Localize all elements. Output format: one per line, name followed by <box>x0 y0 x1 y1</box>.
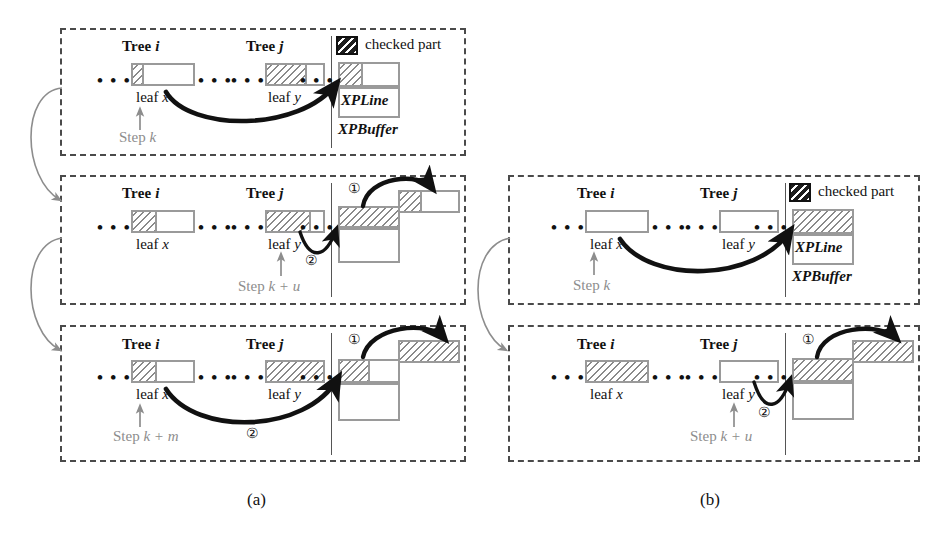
panel-b2-separator <box>785 333 786 455</box>
panel-b2-leaf-x-box <box>585 360 649 383</box>
panel-a1-leaf-x-fill <box>133 65 144 84</box>
panel-b2-marker-two: ② <box>758 404 771 421</box>
panel-a1-leaf-y-label: leaf y <box>268 89 301 106</box>
panel-a2-leaf-y-label: leaf y <box>268 236 301 253</box>
panel-a1-tree-j-label: Tree j <box>246 38 284 55</box>
panel-a2-tree-i-label: Tree i <box>122 185 160 202</box>
panel-b1-tree-j-label: Tree j <box>700 185 738 202</box>
panel-b1-dots-left: • • • <box>551 219 586 236</box>
figure-root: Tree i Tree j checked part • • • • • • l… <box>0 0 932 538</box>
panel-a3-leaf-x-fill <box>133 362 157 381</box>
panel-a3-dots-mid1: • • • <box>198 369 233 386</box>
panel-a3-leaf-y-label: leaf y <box>268 386 301 403</box>
checked-part-legend-label: checked part <box>365 36 441 53</box>
panel-b2-step-label: Step k + u <box>690 428 752 445</box>
panel-b2-buffer-body <box>792 382 854 420</box>
panel-b1-checked-part-label: checked part <box>818 183 894 200</box>
panel-b2-dots-mid1: • • • <box>652 369 687 386</box>
panel-a1-xpline-fill <box>340 64 363 85</box>
panel-b2-tree-i-label: Tree i <box>577 336 615 353</box>
panel-a3-output-box <box>398 340 460 363</box>
panel-b2-buffer-line <box>792 358 854 382</box>
panel-a3-buffer-body <box>338 383 400 421</box>
panel-b2-dots-right: • • • <box>754 369 789 386</box>
panel-a2-step-label: Step k + u <box>238 278 300 295</box>
connector-b1-to-b2 <box>478 238 510 350</box>
panel-a2-leaf-x-fill <box>133 212 157 231</box>
panel-a2-dots-mid1: • • • <box>198 219 233 236</box>
panel-b1-dots-right: • • • <box>754 219 789 236</box>
panel-a2-dots-left: • • • <box>97 219 132 236</box>
panel-a3-marker-one: ① <box>348 331 361 348</box>
panel-a3-marker-two: ② <box>246 425 259 442</box>
panel-a1-xpline-box <box>338 62 400 87</box>
panel-a1-leaf-x-label: leaf x <box>136 89 169 106</box>
panel-a1-leaf-x-box <box>131 63 195 86</box>
panel-b2-output-box <box>852 340 914 363</box>
panel-a3-leaf-x-box <box>131 360 195 383</box>
panel-a1-xpline-label: XPLine <box>341 92 389 109</box>
panel-a2-separator <box>331 183 332 297</box>
panel-a3-tree-i-label: Tree i <box>122 336 160 353</box>
panel-a2-dots-right: • • • <box>300 219 335 236</box>
panel-b1-xpline-box <box>792 209 854 234</box>
panel-a3-buffer-line <box>338 359 400 383</box>
panel-a2-output-fill <box>400 192 422 211</box>
panel-b1-step-label: Step k <box>573 277 610 294</box>
panel-a2-buffer-body <box>338 228 400 263</box>
panel-b1-separator <box>785 183 786 297</box>
panel-a1-dots-right: • • • <box>300 72 335 89</box>
panel-a3-leaf-x-label: leaf x <box>136 386 169 403</box>
panel-a3-step-label: Step k + m <box>113 428 179 445</box>
panel-a2-leaf-x-box <box>131 210 195 233</box>
panel-a1-tree-i-label: Tree i <box>122 38 160 55</box>
panel-a3-separator <box>331 333 332 455</box>
panel-a2-buffer-line <box>338 206 400 228</box>
panel-a3-dots-right: • • • <box>300 369 335 386</box>
panel-a1-dots-mid1: • • • <box>198 72 233 89</box>
panel-a3-tree-j-label: Tree j <box>246 336 284 353</box>
panel-a2-output-box <box>398 190 460 213</box>
panel-b1-tree-i-label: Tree i <box>577 185 615 202</box>
panel-b1-xpbuffer-label: XPBuffer <box>792 268 852 285</box>
connector-a1-to-a2 <box>31 88 62 200</box>
checked-part-swatch <box>336 36 358 55</box>
panel-b2-dots-left: • • • <box>551 369 586 386</box>
panel-b2-leaf-x-label: leaf x <box>590 386 623 403</box>
panel-a3-dots-mid2: • • • <box>231 369 266 386</box>
panel-b2-marker-one: ① <box>802 331 815 348</box>
panel-a3-buffer-line-fill <box>340 361 370 381</box>
panel-b1-leaf-x-label: leaf x <box>590 236 623 253</box>
panel-a1-xpbuffer-label: XPBuffer <box>338 121 398 138</box>
panel-b1-leaf-y-label: leaf y <box>722 236 755 253</box>
connector-a2-to-a3 <box>31 238 62 350</box>
subcaption-b: (b) <box>700 490 720 510</box>
panel-b1-leaf-x-box <box>585 210 649 233</box>
panel-b1-dots-mid1: • • • <box>652 219 687 236</box>
panel-a2-leaf-x-label: leaf x <box>136 236 169 253</box>
panel-a1-dots-left: • • • <box>97 72 132 89</box>
panel-a1-step-label: Step k <box>119 129 156 146</box>
panel-a2-marker-two: ② <box>305 252 318 269</box>
panel-a3-dots-left: • • • <box>97 369 132 386</box>
panel-a2-marker-one: ① <box>348 180 361 197</box>
panel-b2-dots-mid2: • • • <box>685 369 720 386</box>
panel-b1-checked-part-swatch <box>789 183 811 202</box>
panel-b1-xpline-label: XPLine <box>795 239 843 256</box>
panel-b1-dots-mid2: • • • <box>685 219 720 236</box>
panel-b2-tree-j-label: Tree j <box>700 336 738 353</box>
panel-b2-leaf-y-label: leaf y <box>722 386 755 403</box>
panel-a1-separator <box>331 36 332 148</box>
panel-a2-tree-j-label: Tree j <box>246 185 284 202</box>
panel-a2-dots-mid2: • • • <box>231 219 266 236</box>
subcaption-a: (a) <box>247 490 266 510</box>
panel-a1-dots-mid2: • • • <box>231 72 266 89</box>
